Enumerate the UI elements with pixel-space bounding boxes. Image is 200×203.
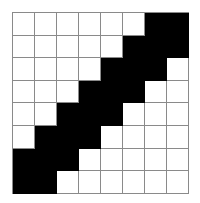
grid-cell — [167, 36, 189, 59]
grid-cell — [35, 126, 57, 149]
grid-cell — [57, 58, 79, 81]
grid-cell — [57, 126, 79, 149]
grid-cell — [79, 171, 101, 194]
grid-cell — [101, 149, 123, 172]
grid-cell — [167, 103, 189, 126]
grid-cell — [57, 81, 79, 104]
grid-cell — [79, 149, 101, 172]
grid-cell — [13, 149, 35, 172]
grid-cell — [145, 149, 167, 172]
grid-cell — [145, 171, 167, 194]
grid-cell — [145, 13, 167, 36]
grid-cell — [101, 36, 123, 59]
pixel-grid — [12, 12, 189, 194]
grid-cell — [101, 103, 123, 126]
grid-cell — [35, 58, 57, 81]
grid-cell — [167, 81, 189, 104]
grid-cell — [123, 149, 145, 172]
grid-cell — [101, 13, 123, 36]
grid-cell — [13, 126, 35, 149]
grid-cell — [101, 81, 123, 104]
grid-cell — [35, 171, 57, 194]
grid-cell — [145, 58, 167, 81]
grid-cell — [123, 58, 145, 81]
grid-cell — [79, 13, 101, 36]
grid-cell — [57, 103, 79, 126]
grid-cell — [167, 126, 189, 149]
grid-cell — [123, 81, 145, 104]
grid-cell — [167, 171, 189, 194]
grid-cell — [35, 81, 57, 104]
grid-cell — [79, 103, 101, 126]
grid-cell — [79, 58, 101, 81]
grid-cell — [145, 81, 167, 104]
grid-cell — [13, 103, 35, 126]
grid-cell — [57, 171, 79, 194]
grid-cell — [145, 126, 167, 149]
grid-cell — [123, 126, 145, 149]
grid-cell — [101, 171, 123, 194]
grid-cell — [79, 81, 101, 104]
grid-cell — [57, 13, 79, 36]
grid-cell — [35, 103, 57, 126]
grid-cell — [167, 13, 189, 36]
grid-cell — [13, 13, 35, 36]
grid-cell — [123, 171, 145, 194]
grid-cell — [13, 171, 35, 194]
grid-cell — [145, 36, 167, 59]
grid-cell — [57, 149, 79, 172]
grid-cell — [13, 81, 35, 104]
grid-cell — [123, 13, 145, 36]
grid-cell — [101, 126, 123, 149]
grid-cell — [79, 36, 101, 59]
grid-cell — [57, 36, 79, 59]
grid-cell — [13, 36, 35, 59]
grid-cell — [35, 36, 57, 59]
grid-cell — [13, 58, 35, 81]
grid-cell — [35, 149, 57, 172]
grid-cell — [145, 103, 167, 126]
grid-cell — [123, 103, 145, 126]
grid-cell — [35, 13, 57, 36]
grid-cell — [123, 36, 145, 59]
grid-cell — [167, 149, 189, 172]
grid-cell — [167, 58, 189, 81]
grid-cell — [101, 58, 123, 81]
grid-cell — [79, 126, 101, 149]
